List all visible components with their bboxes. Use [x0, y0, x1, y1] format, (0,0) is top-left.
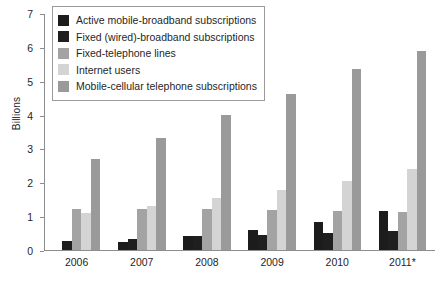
bar-group [370, 14, 435, 250]
y-tick-label: 6 [27, 43, 33, 54]
bar [212, 198, 222, 250]
legend-swatch-icon [58, 81, 69, 92]
y-tick-label: 3 [27, 144, 33, 155]
legend-label: Fixed (wired)-broadband subscriptions [76, 32, 255, 43]
bar-group [305, 14, 370, 250]
legend-item[interactable]: Fixed-telephone lines [58, 45, 257, 62]
bar [258, 235, 268, 250]
legend-item[interactable]: Active mobile-broadband subscriptions [58, 12, 257, 29]
bar [314, 222, 324, 250]
bar [323, 233, 333, 250]
chart-container: Billions 01234567 2006200720082009201020… [0, 0, 446, 283]
bar [183, 236, 193, 250]
x-tick-label: 2008 [174, 256, 239, 268]
legend-label: Internet users [76, 65, 140, 76]
bar [221, 115, 231, 250]
x-tick-label: 2006 [44, 256, 109, 268]
legend-label: Mobile-cellular telephone subscriptions [76, 81, 257, 92]
bar [118, 242, 128, 250]
bar [147, 206, 157, 250]
legend-swatch-icon [58, 15, 69, 26]
bar [342, 181, 352, 250]
bar [407, 169, 417, 250]
legend-item[interactable]: Internet users [58, 62, 257, 79]
chart-legend: Active mobile-broadband subscriptionsFix… [52, 6, 265, 101]
bar [286, 94, 296, 250]
y-tick-label: 7 [27, 9, 33, 20]
bar [388, 231, 398, 250]
bar [352, 69, 362, 250]
y-tick-label: 5 [27, 76, 33, 87]
legend-swatch-icon [58, 48, 69, 59]
x-axis-line [44, 250, 435, 251]
bar [72, 209, 82, 250]
y-tick: 0 [40, 251, 44, 252]
bar [91, 159, 101, 250]
bar [277, 190, 287, 250]
y-tick-label: 0 [27, 246, 33, 257]
legend-label: Fixed-telephone lines [76, 48, 176, 59]
bar [156, 138, 166, 250]
legend-item[interactable]: Mobile-cellular telephone subscriptions [58, 78, 257, 95]
y-tick-label: 1 [27, 212, 33, 223]
legend-item[interactable]: Fixed (wired)-broadband subscriptions [58, 29, 257, 46]
x-tick-label: 2011* [370, 256, 435, 268]
bar [62, 241, 72, 250]
bar [248, 230, 258, 250]
x-tick-label: 2010 [305, 256, 370, 268]
bar [398, 212, 408, 250]
bar [379, 211, 389, 250]
bar [193, 236, 203, 250]
bar [333, 211, 343, 250]
x-axis-labels: 200620072008200920102011* [44, 256, 435, 268]
legend-swatch-icon [58, 31, 69, 42]
y-axis-label: Billions [11, 74, 22, 154]
y-tick-label: 4 [27, 110, 33, 121]
x-tick-label: 2009 [240, 256, 305, 268]
bar [137, 209, 147, 250]
legend-swatch-icon [58, 64, 69, 75]
bar [81, 213, 91, 250]
bar [128, 239, 138, 250]
bar [202, 209, 212, 250]
y-tick-label: 2 [27, 178, 33, 189]
bar [417, 51, 427, 250]
legend-label: Active mobile-broadband subscriptions [76, 15, 256, 26]
bar [267, 210, 277, 250]
x-tick-label: 2007 [109, 256, 174, 268]
